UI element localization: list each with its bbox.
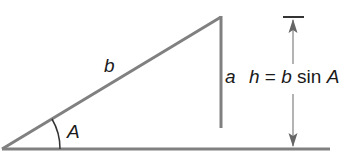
- formula-sin: sin: [292, 66, 327, 87]
- formula-A: A: [327, 66, 340, 87]
- angle-A-arc: [52, 119, 60, 149]
- label-angle-A: A: [67, 122, 80, 141]
- formula-b: b: [281, 66, 292, 87]
- formula-equals: =: [260, 66, 282, 87]
- height-formula: h = b sin A: [249, 67, 339, 86]
- label-side-b: b: [104, 56, 115, 75]
- side-b: [2, 17, 221, 149]
- label-side-a: a: [225, 67, 236, 86]
- formula-h: h: [249, 66, 260, 87]
